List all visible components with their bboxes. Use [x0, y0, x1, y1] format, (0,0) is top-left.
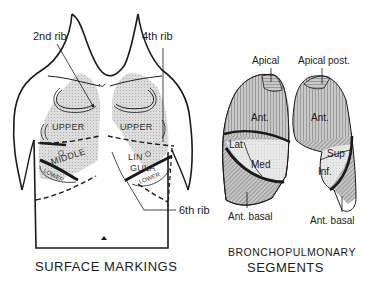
label-2nd-rib: 2nd rib: [33, 30, 67, 42]
label-left-anterior: Ant.: [311, 112, 329, 123]
label-right-anterior-basal: Ant. basal: [228, 211, 272, 222]
label-lateral: Lat: [229, 139, 243, 150]
label-lingula-1: LIN: [128, 152, 143, 162]
label-apical-posterior: Apical post.: [298, 55, 350, 66]
label-medial: Med: [251, 159, 270, 170]
caption-bronchopulmonary: BRONCHOPULMONARY: [228, 246, 356, 258]
bronchopulmonary-diagram: Apical Ant. Lat Med Ant. basal Apical po…: [223, 55, 356, 275]
surface-markings-diagram: 2nd rib 4th rib 6th rib UPPER UPPER MIDD…: [14, 14, 210, 274]
label-4th-rib: 4th rib: [142, 30, 173, 42]
navel-icon: [101, 236, 107, 240]
left-lung: Apical post. Ant. Sup Inf. Ant. basal: [293, 55, 356, 226]
label-left-anterior-basal: Ant. basal: [310, 215, 354, 226]
anatomy-figure: 2nd rib 4th rib 6th rib UPPER UPPER MIDD…: [0, 0, 365, 282]
label-right-anterior: Ant.: [251, 112, 269, 123]
label-6th-rib: 6th rib: [179, 204, 210, 216]
caption-segments: SEGMENTS: [247, 260, 324, 275]
label-inferior: Inf.: [318, 166, 332, 177]
right-lung: Apical Ant. Lat Med Ant. basal: [223, 55, 290, 222]
label-right-upper-lobe: UPPER: [52, 122, 85, 132]
caption-surface-markings: SURFACE MARKINGS: [35, 259, 177, 274]
label-apical: Apical: [252, 55, 279, 66]
label-left-upper-lobe: UPPER: [120, 122, 153, 132]
label-superior: Sup: [327, 148, 345, 159]
label-lingula-2: GULA: [130, 163, 156, 173]
